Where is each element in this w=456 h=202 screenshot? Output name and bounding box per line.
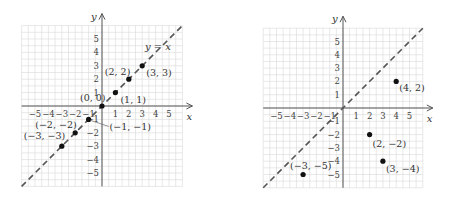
data-point (86, 117, 91, 122)
y-tick-label: 2 (335, 76, 340, 86)
y-tick-label: 4 (94, 47, 99, 57)
point-label: (−3, −3) (24, 130, 65, 141)
y-tick-label: −3 (327, 143, 340, 153)
y-tick-label: 3 (335, 63, 340, 73)
axes: xy−5−4−3−2−112345−5−4−3−2−112345 (22, 11, 193, 187)
axes: xy−5−4−3−2−112345−5−4−3−2−112345 (263, 13, 433, 188)
graph-y-equals-x: xy−5−4−3−2−112345−5−4−3−2−112345y = x(−3… (22, 11, 193, 187)
data-point (367, 132, 372, 137)
point-label: (−3, −5) (290, 160, 331, 171)
data-point (99, 103, 104, 108)
line-equation-label: y = x (144, 41, 171, 52)
x-tick-label: 5 (407, 111, 412, 121)
x-tick-label: −5 (270, 111, 283, 121)
y-tick-label: 5 (94, 34, 99, 44)
x-tick-label: −4 (284, 111, 297, 121)
y-tick-label: −4 (86, 155, 99, 165)
point-label: (2, −2) (373, 138, 407, 149)
x-tick-label: 2 (367, 111, 372, 121)
figure: xy−5−4−3−2−112345−5−4−3−2−112345y = x(−3… (0, 0, 456, 202)
x-tick-label: 1 (354, 111, 359, 121)
x-tick-label: −3 (56, 109, 69, 119)
x-tick-label: 4 (393, 111, 398, 121)
y-axis-label: y (331, 13, 338, 24)
point-label: (−1, −1) (110, 121, 151, 132)
x-tick-label: 5 (166, 109, 171, 119)
x-tick-label: 2 (126, 109, 131, 119)
x-tick-label: 4 (153, 109, 158, 119)
data-point (59, 144, 64, 149)
x-tick-label: −2 (310, 111, 323, 121)
x-axis-label: x (427, 113, 433, 124)
x-axis-label: x (186, 111, 192, 122)
point-label: (1, 1) (120, 94, 146, 105)
x-tick-label: −5 (29, 109, 42, 119)
x-tick-label: 1 (113, 109, 118, 119)
x-tick-label: 3 (139, 109, 144, 119)
point-label: (4, 2) (399, 82, 425, 93)
data-point (140, 63, 145, 68)
x-tick-label: −4 (42, 109, 55, 119)
y-tick-label: −3 (86, 141, 99, 151)
data-point (380, 159, 385, 164)
y-tick-label: 4 (335, 50, 340, 60)
x-tick-label: −3 (297, 111, 310, 121)
point-label: (3, −4) (386, 163, 420, 174)
y-tick-label: 3 (94, 61, 99, 71)
data-point (301, 172, 306, 177)
x-tick-label: −2 (69, 109, 82, 119)
y-tick-label: 2 (94, 74, 99, 84)
point-label: (3, 3) (146, 67, 172, 78)
point-label: (0, 0) (80, 92, 106, 103)
y-tick-label: −5 (86, 168, 99, 178)
data-point (126, 77, 131, 82)
graph-points-off-line: xy−5−4−3−2−112345−5−4−3−2−112345(4, 2)(2… (263, 13, 433, 188)
data-point (73, 130, 78, 135)
y-tick-label: −2 (86, 128, 99, 138)
data-point (113, 90, 118, 95)
point-label: (2, 2) (105, 66, 131, 77)
y-axis-label: y (90, 11, 97, 22)
x-tick-label: 3 (380, 111, 385, 121)
y-tick-label: −2 (327, 130, 340, 140)
data-point (394, 79, 399, 84)
point-label: (−2, −2) (35, 119, 76, 130)
y-tick-label: 1 (335, 90, 340, 100)
y-tick-label: 5 (335, 37, 340, 47)
y-tick-label: −5 (327, 170, 340, 180)
